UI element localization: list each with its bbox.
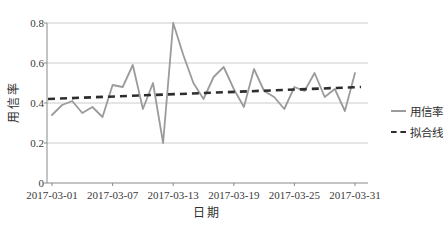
dashed-line-swatch-icon: [391, 131, 406, 133]
x-tick-label-03-19: 2017-03-19: [208, 189, 259, 201]
y-tick-label-0_2: 0.2: [0, 136, 44, 150]
x-tick-label-03-01: 2017-03-01: [26, 189, 77, 201]
legend-item-trend: 拟合线: [391, 124, 443, 140]
x-tick-label-03-25: 2017-03-25: [269, 189, 320, 201]
legend-label-trend: 拟合线: [410, 124, 443, 140]
x-tick-label-03-13: 2017-03-13: [148, 189, 199, 201]
x-tick-label-03-07: 2017-03-07: [87, 189, 138, 201]
legend-label-series: 用信率: [410, 103, 443, 119]
y-tick-label-0_4: 0.4: [0, 96, 44, 110]
y-tick-label-0_6: 0.6: [0, 56, 44, 70]
y-tick-label-0_8: 0.8: [0, 16, 44, 30]
legend-item-series: 用信率: [391, 103, 443, 119]
legend: 用信率 拟合线: [391, 103, 443, 140]
y-tick-label-0: 0: [0, 176, 44, 190]
solid-line-swatch-icon: [391, 110, 406, 112]
x-tick-label-03-31: 2017-03-31: [329, 189, 380, 201]
x-axis-title: 日期: [193, 203, 221, 221]
chart-figure: 用信率 0 0.2 0.4 0.6 0.8 2017-03-01 2017-03…: [0, 0, 445, 226]
